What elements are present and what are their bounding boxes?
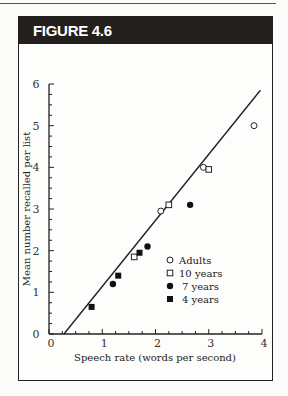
scatter-chart: 012345601234Speech rate (words per secon… — [0, 0, 288, 396]
x-tick-label: 3 — [207, 337, 214, 350]
x-axis-label: Speech rate (words per second) — [74, 352, 236, 363]
y-tick-label: 0 — [33, 328, 40, 341]
y-tick-label: 2 — [33, 245, 40, 258]
x-tick-label: 4 — [261, 337, 268, 350]
legend-marker-icon — [167, 283, 173, 289]
y-tick-label: 1 — [33, 286, 40, 299]
data-point — [187, 202, 193, 208]
data-point — [137, 250, 143, 256]
data-point — [251, 123, 257, 129]
data-point — [158, 208, 164, 214]
data-point — [115, 273, 121, 279]
legend-label: 4 years — [182, 294, 219, 305]
data-point — [131, 254, 137, 260]
y-tick-label: 6 — [33, 78, 40, 91]
legend-label: Adults — [178, 255, 211, 266]
x-tick-label: 2 — [154, 337, 161, 350]
legend-marker-icon — [167, 270, 173, 276]
y-axis-label: Mean number recalled per list — [21, 132, 32, 286]
data-point — [166, 202, 172, 208]
x-tick-label: 1 — [101, 337, 108, 350]
y-tick-label: 5 — [33, 120, 40, 133]
legend-label: 7 years — [182, 281, 219, 292]
legend-label: 10 years — [179, 268, 222, 279]
legend-marker-icon — [167, 257, 173, 263]
data-point — [206, 167, 212, 173]
x-tick-label: 0 — [48, 337, 55, 350]
y-tick-label: 3 — [33, 203, 40, 216]
y-tick-label: 4 — [33, 161, 40, 174]
data-point — [89, 304, 95, 310]
legend-marker-icon — [167, 296, 173, 302]
data-point — [110, 281, 116, 287]
data-point — [144, 243, 150, 249]
